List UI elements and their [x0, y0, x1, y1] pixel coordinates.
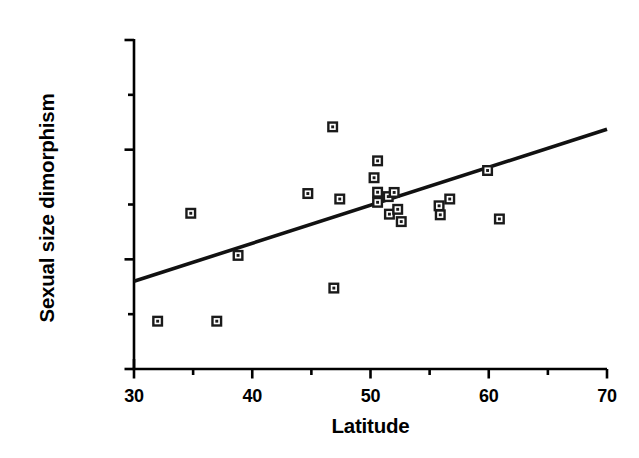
marker-center-dot: [393, 191, 396, 194]
y-axis-tick-labels: 0.0000.0050.0100.015: [0, 0, 120, 458]
data-point-marker: [482, 165, 493, 176]
x-axis-title: Latitude: [134, 414, 607, 438]
marker-center-dot: [156, 320, 159, 323]
marker-center-dot: [306, 192, 309, 195]
data-point-marker: [396, 216, 407, 227]
marker-center-dot: [448, 198, 451, 201]
marker-center-dot: [338, 198, 341, 201]
regression-line: [134, 129, 607, 281]
marker-center-dot: [498, 218, 501, 221]
data-point-marker: [389, 187, 400, 198]
marker-center-dot: [396, 208, 399, 211]
data-point-marker: [327, 121, 338, 132]
data-point-marker: [372, 187, 383, 198]
data-point-marker: [185, 208, 196, 219]
data-point-marker: [435, 209, 446, 220]
data-point-marker: [302, 188, 313, 199]
x-axis-tick-label: 30: [124, 386, 143, 407]
marker-center-dot: [332, 287, 335, 290]
marker-center-dot: [237, 254, 240, 257]
marker-center-dot: [388, 213, 391, 216]
scatter-plot-figure: 0.0000.0050.0100.015 3040506070 Sexual s…: [0, 0, 639, 458]
data-point-marker: [392, 204, 403, 215]
data-point-marker: [372, 155, 383, 166]
data-point-marker: [444, 194, 455, 205]
marker-center-dot: [486, 169, 489, 172]
x-axis-tick-label: 40: [243, 386, 262, 407]
data-point-marker: [369, 172, 380, 183]
marker-center-dot: [439, 213, 442, 216]
marker-center-dot: [331, 125, 334, 128]
marker-center-dot: [376, 191, 379, 194]
marker-center-dot: [400, 220, 403, 223]
data-point-marker: [494, 213, 505, 224]
data-point-marker: [334, 194, 345, 205]
x-axis-tick-label: 60: [479, 386, 498, 407]
data-point-marker: [328, 283, 339, 294]
marker-center-dot: [373, 176, 376, 179]
marker-center-dot: [376, 159, 379, 162]
marker-center-dot: [189, 212, 192, 215]
marker-center-dot: [215, 320, 218, 323]
y-axis-title: Sexual size dimorphism: [35, 58, 59, 358]
data-point-marker: [211, 316, 222, 327]
x-axis-tick-label: 70: [597, 386, 616, 407]
data-point-marker: [372, 197, 383, 208]
data-point-marker: [152, 316, 163, 327]
marker-center-dot: [376, 201, 379, 204]
marker-center-dot: [438, 204, 441, 207]
x-axis-tick-label: 50: [361, 386, 380, 407]
data-point-marker: [233, 250, 244, 261]
